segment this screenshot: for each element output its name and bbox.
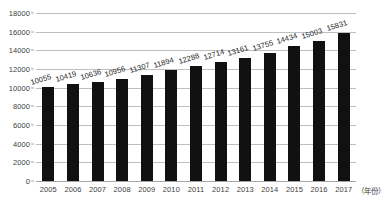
bar[interactable] bbox=[67, 84, 79, 181]
x-axis-tick-label: 2014 bbox=[261, 185, 278, 194]
x-axis: 2005200620072008200920102011201220132014… bbox=[36, 185, 356, 199]
bar-value-label: 15003 bbox=[300, 26, 323, 41]
plot-area: 1005510419106361095611307118941228812714… bbox=[36, 13, 356, 181]
x-axis-tick-label: 2013 bbox=[237, 185, 254, 194]
bar-value-label: 10419 bbox=[54, 69, 77, 84]
y-axis-tick-label: 8000 bbox=[13, 102, 30, 111]
y-axis-tick-label: 12000 bbox=[9, 65, 30, 74]
x-axis-tick-label: 2010 bbox=[163, 185, 180, 194]
y-axis-tick-mark bbox=[31, 87, 34, 88]
y-axis-tick-mark bbox=[31, 50, 34, 51]
y-axis-tick-label: 0 bbox=[26, 177, 30, 186]
bar[interactable] bbox=[338, 33, 350, 181]
x-axis-tick-label: 2006 bbox=[64, 185, 81, 194]
y-axis-tick-mark bbox=[31, 181, 34, 182]
y-axis-tick-label: 4000 bbox=[13, 139, 30, 148]
bar[interactable] bbox=[215, 62, 227, 181]
y-axis-tick-label: 16000 bbox=[9, 27, 30, 36]
x-axis-tick-label: 2011 bbox=[188, 185, 205, 194]
y-axis-tick-label: 14000 bbox=[9, 46, 30, 55]
y-axis-tick-mark bbox=[31, 31, 34, 32]
bar-chart: 0200040006000800010000120001400016000180… bbox=[0, 0, 388, 206]
y-axis-tick-label: 18000 bbox=[9, 9, 30, 18]
y-axis-tick-label: 2000 bbox=[13, 158, 30, 167]
x-axis-tick-label: 2017 bbox=[335, 185, 352, 194]
x-axis-tick-label: 2012 bbox=[212, 185, 229, 194]
bar[interactable] bbox=[116, 79, 128, 181]
y-axis-tick-mark bbox=[31, 162, 34, 163]
x-axis-tick-label: 2016 bbox=[311, 185, 328, 194]
y-axis-tick-mark bbox=[31, 13, 34, 14]
y-axis: 0200040006000800010000120001400016000180… bbox=[0, 13, 34, 181]
gridline bbox=[36, 181, 356, 182]
bar[interactable] bbox=[92, 82, 104, 181]
bar-value-label: 10956 bbox=[104, 64, 127, 79]
y-axis-tick-mark bbox=[31, 143, 34, 144]
y-axis-tick-mark bbox=[31, 125, 34, 126]
bar-value-label: 11307 bbox=[128, 61, 151, 76]
y-axis-tick-mark bbox=[31, 106, 34, 107]
bar-value-label: 11894 bbox=[153, 55, 176, 70]
x-axis-tick-label: 2009 bbox=[138, 185, 155, 194]
bar[interactable] bbox=[239, 58, 251, 181]
y-axis-tick-mark bbox=[31, 69, 34, 70]
x-axis-tick-label: 2015 bbox=[286, 185, 303, 194]
gridline bbox=[36, 13, 356, 14]
bar[interactable] bbox=[288, 46, 300, 181]
x-axis-tick-label: 2005 bbox=[40, 185, 57, 194]
bar-value-label: 13161 bbox=[227, 43, 250, 58]
x-axis-title: （年份） bbox=[357, 185, 385, 196]
x-axis-tick-label: 2007 bbox=[89, 185, 106, 194]
bar-value-label: 12288 bbox=[177, 51, 200, 66]
bar[interactable] bbox=[313, 41, 325, 181]
y-axis-tick-label: 6000 bbox=[13, 121, 30, 130]
bar-value-label: 14434 bbox=[276, 31, 299, 46]
bar[interactable] bbox=[141, 75, 153, 181]
bar[interactable] bbox=[42, 87, 54, 181]
bar[interactable] bbox=[264, 53, 276, 181]
bar[interactable] bbox=[165, 70, 177, 181]
y-axis-tick-label: 10000 bbox=[9, 83, 30, 92]
x-axis-tick-label: 2008 bbox=[114, 185, 131, 194]
bar[interactable] bbox=[190, 66, 202, 181]
